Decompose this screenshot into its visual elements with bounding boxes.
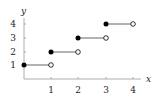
x-tick-label: 1 xyxy=(48,85,54,95)
x-tick-label: 3 xyxy=(103,85,109,95)
y-tick-label: 2 xyxy=(10,47,16,57)
step-segments xyxy=(24,24,133,65)
x-tick-label: 4 xyxy=(130,85,136,95)
x-axis-label: x xyxy=(146,74,151,84)
open-points xyxy=(49,22,136,68)
y-tick-label: 4 xyxy=(10,19,16,29)
y-axis-label: y xyxy=(20,6,27,16)
step-function-chart: 1 2 3 4 1 2 3 4 x y xyxy=(0,0,156,101)
x-tick-label: 2 xyxy=(75,85,81,95)
closed-points xyxy=(22,22,109,68)
y-tick-label: 1 xyxy=(10,60,16,70)
y-tick-label: 3 xyxy=(10,33,16,43)
